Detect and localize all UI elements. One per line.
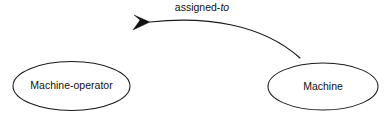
diagram-canvas: assigned-to Machine-operator Machine [0,0,387,121]
edge-label-italic-part: to [220,1,229,13]
edge-label-assigned-to: assigned-to [175,1,229,13]
edge-arrowhead-icon [133,15,150,30]
node-machine-operator-label: Machine-operator [30,79,113,91]
er-diagram: assigned-to Machine-operator Machine [0,0,387,121]
node-machine-label: Machine [303,80,343,92]
edge-label-main: assigned- [175,1,221,13]
edge-assigned-to-path [150,20,300,58]
